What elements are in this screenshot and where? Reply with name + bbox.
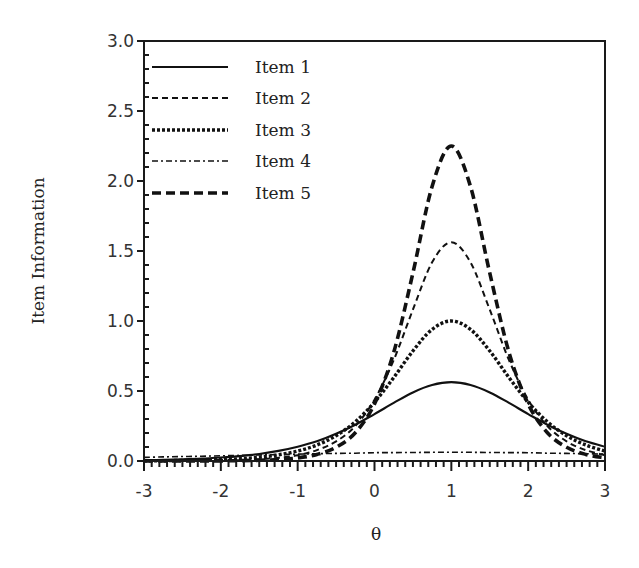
legend-label-1: Item 1 [255, 57, 311, 77]
y-tick-label: 0.5 [107, 381, 134, 401]
x-axis-title: θ [371, 524, 381, 544]
x-tick-label: 1 [446, 481, 457, 501]
x-tick-label: -2 [212, 481, 229, 501]
x-tick-label: -1 [289, 481, 306, 501]
legend-label-2: Item 2 [255, 88, 311, 108]
legend-label-3: Item 3 [255, 120, 311, 140]
item-information-chart: 0.00.51.01.52.02.53.0 -3-2-10123 Item In… [0, 0, 639, 568]
x-tick-label: -3 [136, 481, 153, 501]
y-tick-label: 0.0 [107, 451, 134, 471]
y-axis-title: Item Information [28, 177, 48, 324]
legend-label-5: Item 5 [255, 183, 311, 203]
y-tick-label: 2.5 [107, 101, 134, 121]
y-tick-label: 2.0 [107, 171, 134, 191]
y-tick-label: 1.0 [107, 311, 134, 331]
x-axis-ticks: -3-2-10123 [136, 461, 611, 501]
y-axis-ticks: 0.00.51.01.52.02.53.0 [107, 31, 149, 471]
x-tick-label: 0 [369, 481, 380, 501]
legend-label-4: Item 4 [255, 151, 311, 171]
y-tick-label: 3.0 [107, 31, 134, 51]
y-tick-label: 1.5 [107, 241, 134, 261]
x-tick-label: 3 [600, 481, 611, 501]
x-tick-label: 2 [523, 481, 534, 501]
